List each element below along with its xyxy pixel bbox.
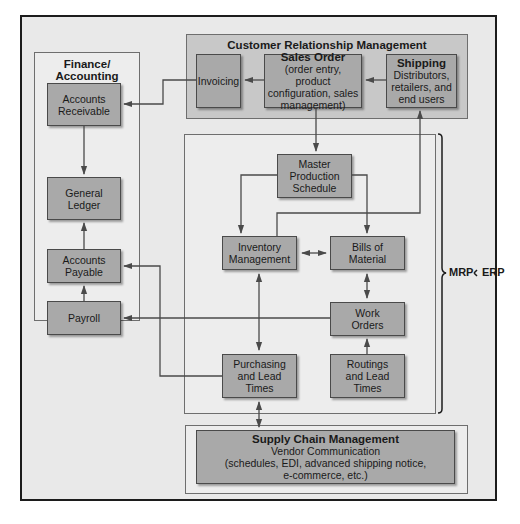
accounts-receivable-node[interactable]: Accounts Receivable bbox=[47, 83, 121, 126]
work-orders-label: Work Orders bbox=[348, 307, 388, 331]
crm-title: Customer Relationship Management bbox=[186, 39, 468, 51]
invoicing-label: Invoicing bbox=[198, 75, 239, 87]
sales-order-detail: (order entry, product configuration, sal… bbox=[267, 63, 359, 111]
purchasing-label: Purchasing and Lead Times bbox=[230, 358, 290, 394]
general-ledger-node[interactable]: General Ledger bbox=[47, 177, 121, 220]
accounts-receivable-label: Accounts Receivable bbox=[54, 93, 114, 117]
finance-title: Finance/ Accounting bbox=[52, 58, 122, 82]
routings-node[interactable]: Routings and Lead Times bbox=[330, 354, 405, 398]
sales-order-title: Sales Order bbox=[281, 51, 346, 63]
scm-line3: e-commerce, etc.) bbox=[283, 469, 368, 481]
work-orders-node[interactable]: Work Orders bbox=[330, 302, 405, 336]
sales-order-node[interactable]: Sales Order (order entry, product config… bbox=[264, 54, 362, 108]
shipping-node[interactable]: Shipping Distributors, retailers, and en… bbox=[386, 54, 457, 108]
invoicing-node[interactable]: Invoicing bbox=[196, 54, 241, 108]
master-production-schedule-node[interactable]: Master Production Schedule bbox=[277, 154, 352, 198]
accounts-payable-label: Accounts Payable bbox=[57, 254, 112, 278]
payroll-node[interactable]: Payroll bbox=[47, 301, 121, 335]
routings-label: Routings and Lead Times bbox=[338, 358, 398, 394]
bills-of-material-node[interactable]: Bills of Material bbox=[330, 236, 405, 270]
accounts-payable-node[interactable]: Accounts Payable bbox=[47, 249, 121, 283]
shipping-detail: Distributors, retailers, and end users bbox=[390, 69, 454, 105]
scm-title: Supply Chain Management bbox=[252, 433, 399, 445]
bills-of-material-label: Bills of Material bbox=[343, 241, 393, 265]
master-production-schedule-label: Master Production Schedule bbox=[285, 158, 345, 194]
inventory-management-label: Inventory Management bbox=[226, 241, 294, 265]
scm-line1: Vendor Communication bbox=[271, 445, 380, 457]
general-ledger-label: General Ledger bbox=[59, 187, 109, 211]
shipping-title: Shipping bbox=[397, 57, 446, 69]
erp-bracket-label: ERP bbox=[482, 266, 505, 278]
supply-chain-management-node[interactable]: Supply Chain Management Vendor Communica… bbox=[196, 430, 455, 484]
purchasing-node[interactable]: Purchasing and Lead Times bbox=[222, 354, 297, 398]
payroll-label: Payroll bbox=[68, 312, 100, 324]
inventory-management-node[interactable]: Inventory Management bbox=[222, 236, 297, 270]
mrp-bracket-label: MRP bbox=[449, 266, 473, 278]
scm-line2: (schedules, EDI, advanced shipping notic… bbox=[225, 457, 426, 469]
